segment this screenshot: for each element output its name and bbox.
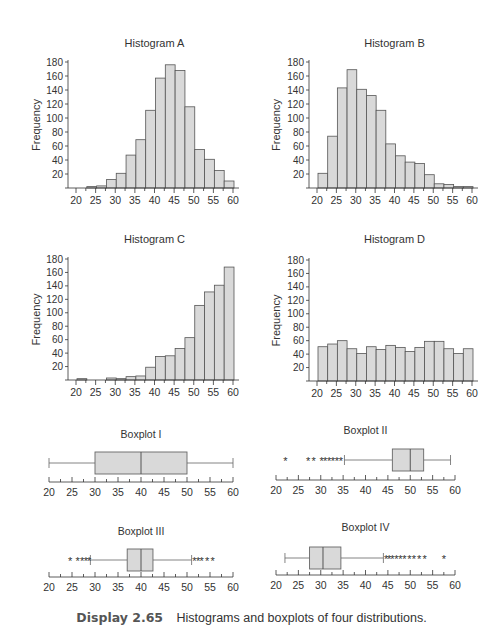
x-tick-label: 30 <box>315 579 327 591</box>
histogram-bar <box>195 150 205 189</box>
y-tick-label: 80 <box>293 127 305 138</box>
y-tick-label: 20 <box>52 169 64 180</box>
y-tick-label: 20 <box>52 361 64 372</box>
bars <box>318 70 473 188</box>
y-tick-label: 40 <box>293 155 305 166</box>
boxplot-2: Boxplot II*********202530354045505560 <box>270 424 461 496</box>
x-tick-label: 55 <box>204 486 216 498</box>
y-tick-label: 160 <box>46 267 63 278</box>
histogram-bar <box>328 344 338 381</box>
y-tick-label: 180 <box>287 255 304 266</box>
histogram-bar <box>214 285 224 380</box>
histogram-bar <box>357 353 367 381</box>
x-tick-label: 50 <box>427 194 439 206</box>
x-tick-label: 45 <box>168 194 180 206</box>
histogram-bar <box>185 338 195 380</box>
histogram-bar <box>386 144 396 188</box>
x-axis: 202530354045505560 <box>270 475 461 496</box>
y-tick-label: 40 <box>293 349 305 360</box>
histogram-bar <box>366 347 376 381</box>
chart-title: Boxplot IV <box>342 521 390 533</box>
histogram-bar <box>337 88 347 188</box>
x-tick-label: 35 <box>369 194 381 206</box>
x-tick-label: 25 <box>90 194 102 206</box>
x-tick-label: 60 <box>227 486 239 498</box>
histogram-d: Histogram DFrequency20406080100120140160… <box>270 233 478 399</box>
y-tick-label: 60 <box>52 334 64 345</box>
x-tick-label: 40 <box>135 486 147 498</box>
x-tick-label: 55 <box>208 194 220 206</box>
histogram-bar <box>126 377 136 380</box>
x-tick-label: 55 <box>447 194 459 206</box>
x-tick-label: 25 <box>66 581 78 593</box>
x-tick-label: 35 <box>337 484 349 496</box>
y-tick-label: 180 <box>46 254 63 265</box>
histogram-bar <box>366 96 376 188</box>
x-tick-label: 30 <box>350 194 362 206</box>
x-tick-label: 40 <box>135 581 147 593</box>
x-tick-label: 30 <box>315 484 327 496</box>
outlier-marker: * <box>200 555 205 567</box>
histogram-bar <box>444 185 454 189</box>
x-axis: 202530354045505560 <box>68 188 239 206</box>
x-axis: 202530354045505560 <box>43 477 239 498</box>
x-tick-label: 20 <box>43 486 55 498</box>
outlier-marker: * <box>311 455 316 467</box>
y-axis-label: Frequency <box>30 293 42 345</box>
y-tick-label: 60 <box>293 335 305 346</box>
box-elements <box>49 452 233 474</box>
histogram-bar <box>425 175 435 188</box>
box-elements: ********** <box>68 549 216 571</box>
histogram-bar <box>126 155 136 188</box>
histogram-bar <box>463 349 473 381</box>
histogram-bar <box>347 349 357 381</box>
outlier-marker: * <box>283 455 288 467</box>
histogram-bar <box>214 171 224 189</box>
x-tick-label: 35 <box>129 194 141 206</box>
x-tick-label: 40 <box>360 579 372 591</box>
outlier-marker: * <box>205 555 210 567</box>
x-tick-label: 60 <box>227 194 239 206</box>
histogram-bar <box>185 107 195 188</box>
y-tick-label: 180 <box>287 57 304 68</box>
x-tick-label: 60 <box>466 194 478 206</box>
y-tick-label: 140 <box>46 85 63 96</box>
chart-title: Boxplot III <box>118 525 165 537</box>
chart-title: Boxplot I <box>121 428 162 440</box>
x-tick-label: 35 <box>112 486 124 498</box>
bars <box>87 65 234 188</box>
x-tick-label: 50 <box>181 486 193 498</box>
histogram-b: Histogram BFrequency20406080100120140160… <box>270 37 478 206</box>
x-tick-label: 55 <box>427 484 439 496</box>
x-tick-label: 20 <box>43 581 55 593</box>
x-tick-label: 25 <box>293 579 305 591</box>
histogram-bar <box>136 376 146 380</box>
x-axis: 202530354045505560 <box>309 188 478 206</box>
y-tick-label: 80 <box>52 321 64 332</box>
x-tick-label: 60 <box>466 387 478 399</box>
iqr-box <box>392 449 423 471</box>
chart-title: Histogram C <box>124 233 185 245</box>
x-tick-label: 55 <box>427 579 439 591</box>
histogram-bar <box>224 267 234 380</box>
histogram-bar <box>318 173 328 188</box>
x-tick-label: 20 <box>70 386 82 398</box>
x-tick-label: 20 <box>70 194 82 206</box>
y-tick-label: 120 <box>287 99 304 110</box>
x-tick-label: 25 <box>66 486 78 498</box>
y-tick-label: 120 <box>287 295 304 306</box>
bars <box>77 267 234 380</box>
chart-title: Boxplot II <box>344 424 388 436</box>
x-tick-label: 25 <box>331 194 343 206</box>
x-tick-label: 50 <box>188 386 200 398</box>
x-tick-label: 30 <box>109 194 121 206</box>
x-tick-label: 30 <box>109 386 121 398</box>
histogram-bar <box>165 356 175 380</box>
x-tick-label: 20 <box>311 194 323 206</box>
y-tick-label: 40 <box>52 155 64 166</box>
histogram-bar <box>224 181 234 188</box>
y-axis-label: Frequency <box>30 99 42 151</box>
x-axis: 202530354045505560 <box>270 570 461 591</box>
y-tick-label: 140 <box>287 281 304 292</box>
x-axis: 202530354045505560 <box>43 572 239 593</box>
